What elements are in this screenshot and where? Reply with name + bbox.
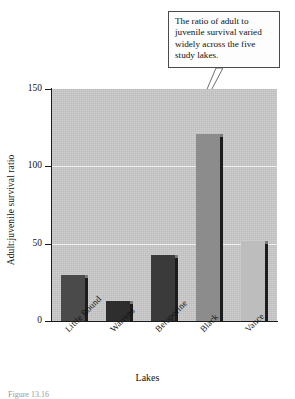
x-tick-labels: Little RoundWarrensBeloporineBlackVance xyxy=(0,0,295,399)
figure-container: The ratio of adult to juvenile survival … xyxy=(0,0,295,399)
x-tick-label-black: Black xyxy=(198,312,220,334)
figure-caption: Figure 13.16 xyxy=(8,390,287,399)
x-axis-title: Lakes xyxy=(0,372,295,383)
x-tick-label-little-round: Little Round xyxy=(63,294,103,334)
x-tick-label-vance: Vance xyxy=(243,311,266,334)
x-tick-label-beloporine: Beloporine xyxy=(153,298,189,334)
y-axis-title: Adult:juvenile survival ratio xyxy=(6,135,16,285)
x-tick-label-warrens: Warrens xyxy=(108,305,137,334)
